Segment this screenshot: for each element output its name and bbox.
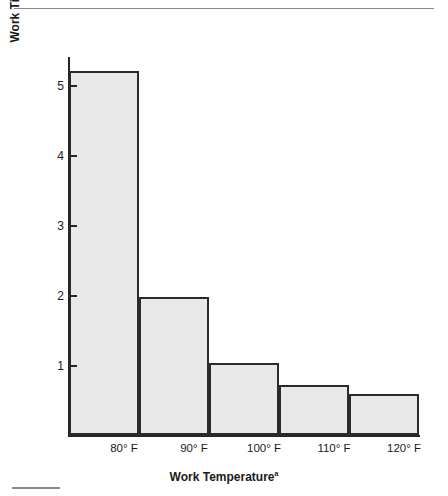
y-axis-tick-label: 3 — [57, 220, 64, 232]
top-divider-rule — [14, 8, 434, 9]
x-axis-title: Work Temperaturea — [0, 470, 448, 484]
x-axis-tick-label: 90° F — [180, 443, 208, 455]
y-axis-tick: 1 — [70, 365, 77, 367]
bar — [279, 385, 349, 435]
bar — [349, 394, 419, 435]
x-axis-tick-label: 100° F — [247, 443, 281, 455]
y-axis-title-line2: (in Hours) — [23, 0, 38, 43]
footnote-divider-rule — [12, 487, 60, 489]
y-axis-title-line1: Work Time Before Performance Begins to D… — [8, 0, 22, 43]
y-axis-tick-label: 5 — [57, 80, 64, 92]
y-axis-tick-label: 2 — [57, 290, 64, 302]
x-axis-title-footnote-marker: a — [275, 470, 279, 477]
y-axis-title: Work Time Before Performance Begins to D… — [6, 0, 40, 91]
bar — [209, 363, 279, 435]
y-axis-tick-label: 1 — [57, 360, 64, 372]
bar — [69, 71, 139, 435]
y-axis-tick: 5 — [70, 85, 77, 87]
x-axis-line — [68, 435, 420, 437]
y-axis-tick: 2 — [70, 295, 77, 297]
x-axis-tick-label: 110° F — [317, 443, 350, 455]
x-axis-tick-label: 120° F — [387, 443, 421, 455]
y-axis-tick-label: 4 — [57, 150, 64, 162]
bar-series — [69, 57, 420, 435]
x-axis-title-text: Work Temperature — [170, 470, 275, 484]
x-axis-tick-label: 80° F — [110, 443, 138, 455]
chart-figure: Work Time Before Performance Begins to D… — [0, 0, 448, 496]
y-axis-tick: 4 — [70, 155, 77, 157]
y-axis-tick: 3 — [70, 225, 77, 227]
plot-area: 12345 — [68, 57, 420, 437]
bar — [139, 297, 209, 435]
